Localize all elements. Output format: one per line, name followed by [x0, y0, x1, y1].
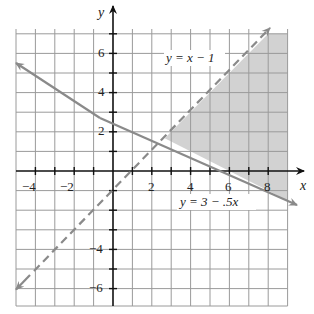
line-y-equals-x-minus-1-tail	[16, 275, 30, 290]
equation-label-dashed: y = x − 1	[164, 50, 215, 65]
x-tick-label: 4	[187, 179, 194, 194]
x-tick-label: 2	[148, 179, 155, 194]
y-tick-label: −4	[89, 241, 103, 256]
y-tick-label: 6	[98, 45, 105, 60]
y-tick-label: 2	[98, 123, 105, 138]
line-y-equals-3-minus-half-x	[16, 63, 100, 118]
graph-canvas: x y −4 −2 2 4 6 8 6 4 2 −4 −6 y = x − 1 …	[0, 0, 314, 314]
x-tick-label: −2	[60, 179, 74, 194]
x-tick-label: 8	[264, 179, 271, 194]
equation-label-solid: y = 3 − .5x	[178, 194, 239, 209]
y-axis-label: y	[96, 5, 105, 20]
y-tick-label: 4	[98, 84, 105, 99]
x-axis-label: x	[299, 178, 307, 193]
x-tick-label: 6	[225, 179, 232, 194]
x-tick-label: −4	[22, 179, 36, 194]
y-tick-label: −6	[89, 280, 103, 295]
